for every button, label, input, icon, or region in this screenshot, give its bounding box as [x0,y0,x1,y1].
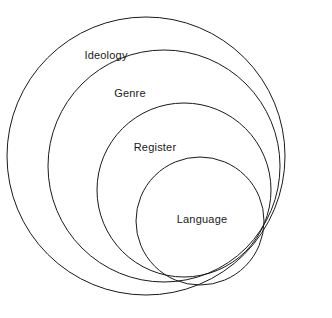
circle-genre [48,50,280,282]
nested-circles-diagram: Ideology Genre Register Language [0,0,332,318]
concentric-circles-graphic [0,0,332,318]
label-register: Register [134,142,177,153]
circle-register [97,103,271,277]
label-language: Language [177,214,228,225]
label-genre: Genre [114,88,146,99]
label-ideology: Ideology [84,50,127,61]
